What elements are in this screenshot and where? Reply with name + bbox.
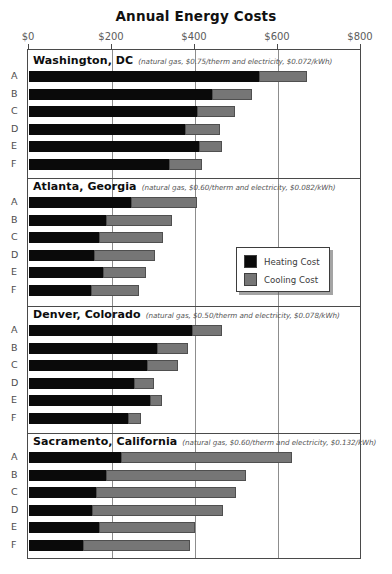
- bar-row: [29, 71, 361, 82]
- chart-root: Annual Energy Costs $0$200$400$600$800 W…: [0, 0, 392, 574]
- bar-row: [29, 522, 361, 533]
- bar-segment-heating: [29, 124, 185, 135]
- bar-segment-cooling: [169, 159, 201, 170]
- bar-segment-cooling: [92, 505, 223, 516]
- legend-label-cooling: Cooling Cost: [264, 275, 318, 285]
- x-tick-mark-0: [28, 44, 29, 50]
- bar-segment-heating: [29, 89, 212, 100]
- bar-segment-cooling: [212, 89, 252, 100]
- section-header: Sacramento, California(natural gas, $0.6…: [33, 435, 376, 449]
- x-tick-mark-200: [111, 44, 112, 50]
- x-tick-label-0: $0: [22, 31, 35, 42]
- bar-segment-cooling: [197, 106, 235, 117]
- x-tick-label-800: $800: [347, 31, 372, 42]
- bar-row: [29, 141, 361, 152]
- row-label-d: D: [11, 504, 25, 515]
- bar-segment-cooling: [147, 360, 178, 371]
- bar-segment-heating: [29, 141, 199, 152]
- x-axis-tick-labels: $0$200$400$600$800: [0, 31, 392, 46]
- bar-segment-heating: [29, 487, 96, 498]
- bar-segment-heating: [29, 250, 94, 261]
- bar-segment-heating: [29, 360, 147, 371]
- bar-segment-cooling: [106, 470, 246, 481]
- bar-segment-cooling: [106, 215, 172, 226]
- bar-row: [29, 106, 361, 117]
- section-divider: [28, 433, 360, 434]
- section-header: Denver, Colorado(natural gas, $0.50/ther…: [33, 308, 340, 322]
- bar-segment-cooling: [199, 141, 222, 152]
- row-label-c: C: [11, 105, 25, 116]
- bar-segment-cooling: [99, 232, 163, 243]
- row-label-e: E: [11, 266, 25, 277]
- row-label-c: C: [11, 359, 25, 370]
- bar-segment-heating: [29, 413, 128, 424]
- bar-segment-cooling: [94, 250, 155, 261]
- bar-row: [29, 215, 361, 226]
- bar-segment-heating: [29, 378, 134, 389]
- x-tick-label-600: $600: [264, 31, 289, 42]
- section-utility-rates: (natural gas, $0.50/therm and electricit…: [146, 311, 340, 320]
- legend-swatch-cooling: [244, 273, 257, 286]
- bar-segment-cooling: [185, 124, 220, 135]
- bar-segment-cooling: [150, 395, 162, 406]
- bar-segment-cooling: [121, 452, 292, 463]
- bar-segment-cooling: [128, 413, 141, 424]
- row-label-c: C: [11, 486, 25, 497]
- bar-row: [29, 343, 361, 354]
- bar-row: [29, 395, 361, 406]
- bar-row: [29, 124, 361, 135]
- chart-section-3: Denver, Colorado(natural gas, $0.50/ther…: [28, 308, 360, 431]
- row-label-b: B: [11, 342, 25, 353]
- bar-segment-cooling: [83, 540, 190, 551]
- section-divider: [28, 306, 360, 307]
- bar-row: [29, 413, 361, 424]
- bar-segment-heating: [29, 505, 92, 516]
- legend-item-cooling: Cooling Cost: [244, 273, 318, 286]
- row-label-d: D: [11, 377, 25, 388]
- bar-segment-heating: [29, 395, 150, 406]
- bar-row: [29, 159, 361, 170]
- bar-row: [29, 89, 361, 100]
- chart-title: Annual Energy Costs: [0, 8, 392, 24]
- section-city-name: Sacramento, California: [33, 435, 177, 448]
- bar-segment-cooling: [96, 487, 235, 498]
- row-label-f: F: [11, 284, 25, 295]
- row-label-a: A: [11, 70, 25, 81]
- bar-segment-heating: [29, 232, 99, 243]
- legend-label-heating: Heating Cost: [264, 257, 320, 267]
- bar-row: [29, 540, 361, 551]
- row-label-e: E: [11, 140, 25, 151]
- row-label-a: A: [11, 196, 25, 207]
- row-label-b: B: [11, 469, 25, 480]
- x-tick-label-400: $400: [181, 31, 206, 42]
- bar-segment-cooling: [259, 71, 307, 82]
- section-city-name: Denver, Colorado: [33, 308, 141, 321]
- bar-segment-heating: [29, 197, 131, 208]
- bar-segment-cooling: [99, 522, 196, 533]
- bar-segment-cooling: [134, 378, 154, 389]
- bar-row: [29, 505, 361, 516]
- row-label-f: F: [11, 412, 25, 423]
- bar-segment-cooling: [157, 343, 188, 354]
- legend-swatch-heating: [244, 255, 257, 268]
- section-city-name: Atlanta, Georgia: [33, 180, 137, 193]
- bar-segment-heating: [29, 267, 103, 278]
- bar-segment-cooling: [192, 325, 222, 336]
- row-label-f: F: [11, 158, 25, 169]
- legend: Heating Cost Cooling Cost: [236, 247, 330, 292]
- row-label-b: B: [11, 88, 25, 99]
- x-tick-mark-800: [360, 44, 361, 50]
- section-divider: [28, 178, 360, 179]
- bar-row: [29, 232, 361, 243]
- bar-segment-heating: [29, 159, 169, 170]
- row-label-f: F: [11, 539, 25, 550]
- bar-segment-heating: [29, 285, 91, 296]
- row-label-a: A: [11, 324, 25, 335]
- bar-segment-heating: [29, 215, 106, 226]
- row-label-e: E: [11, 394, 25, 405]
- bar-row: [29, 470, 361, 481]
- row-label-a: A: [11, 451, 25, 462]
- x-tick-label-200: $200: [98, 31, 123, 42]
- bar-segment-heating: [29, 71, 259, 82]
- bar-segment-heating: [29, 452, 121, 463]
